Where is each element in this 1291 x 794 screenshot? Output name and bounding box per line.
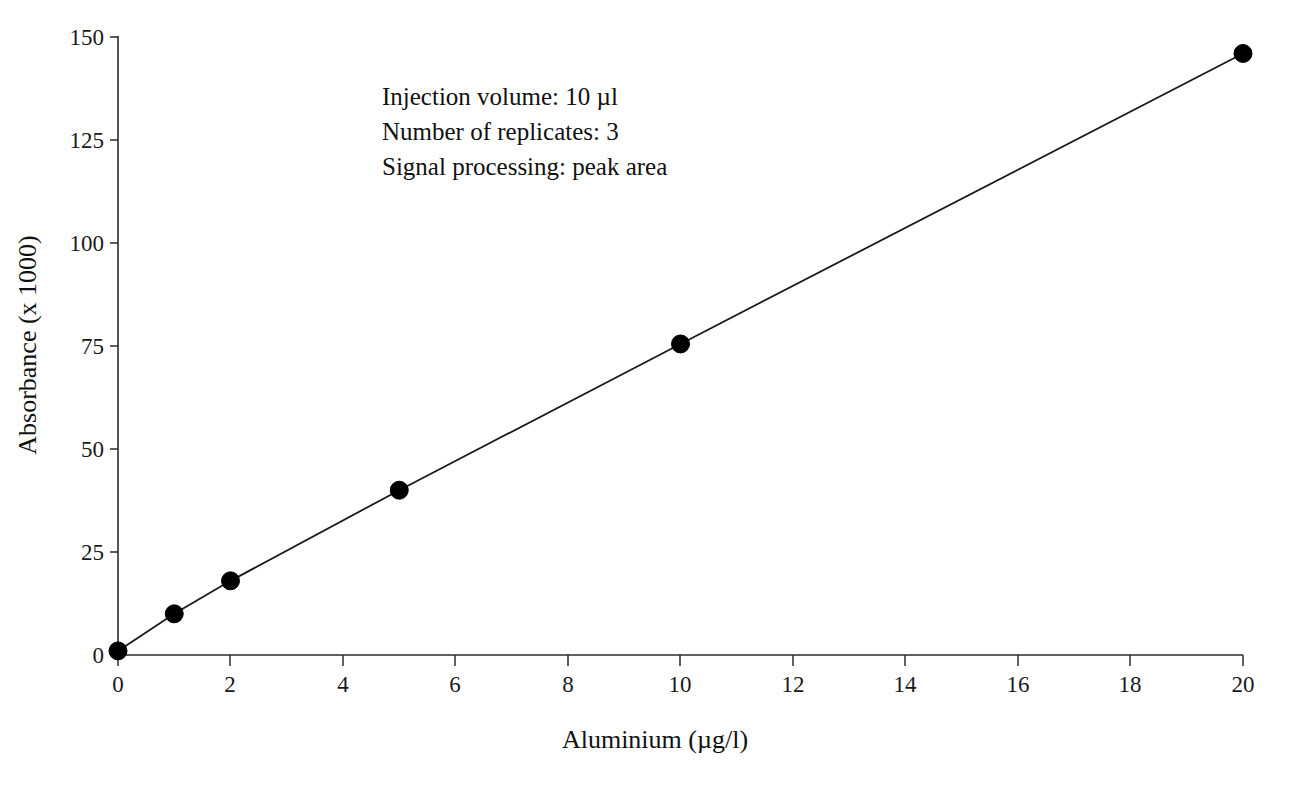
x-tick-label-10: 10 [669, 672, 692, 697]
data-point-marker [222, 572, 240, 590]
annotation-block: Injection volume: 10 µl Number of replic… [382, 83, 667, 180]
x-tick-label-12: 12 [782, 672, 805, 697]
calibration-chart-figure: 0 25 50 75 100 125 150 0 2 4 6 8 10 12 1… [0, 0, 1291, 794]
y-tick-label-50: 50 [81, 437, 104, 462]
chart-canvas: 0 25 50 75 100 125 150 0 2 4 6 8 10 12 1… [0, 0, 1291, 794]
y-axis-ticks [110, 37, 118, 655]
data-point-marker [1234, 44, 1252, 62]
y-tick-label-150: 150 [70, 25, 105, 50]
x-tick-label-6: 6 [449, 672, 461, 697]
y-tick-label-75: 75 [81, 334, 104, 359]
x-tick-label-14: 14 [894, 672, 918, 697]
x-tick-label-20: 20 [1232, 672, 1255, 697]
data-series-group [109, 44, 1252, 659]
x-tick-label-4: 4 [337, 672, 349, 697]
x-tick-label-18: 18 [1119, 672, 1142, 697]
x-tick-label-2: 2 [224, 672, 236, 697]
annotation-line-injection-volume: Injection volume: 10 µl [382, 83, 618, 110]
y-tick-label-0: 0 [93, 643, 105, 668]
x-axis-title: Aluminium (µg/l) [562, 725, 748, 754]
x-axis-ticks [118, 655, 1243, 666]
annotation-line-replicates: Number of replicates: 3 [382, 118, 619, 145]
annotation-line-signal-processing: Signal processing: peak area [382, 153, 667, 180]
data-point-marker [165, 605, 183, 623]
data-point-marker [109, 642, 127, 660]
x-tick-label-16: 16 [1007, 672, 1030, 697]
x-tick-label-8: 8 [562, 672, 574, 697]
x-axis-tick-labels: 0 2 4 6 8 10 12 14 16 18 20 [112, 672, 1254, 697]
y-axis-title: Absorbance (x 1000) [13, 235, 42, 455]
x-tick-label-0: 0 [112, 672, 124, 697]
y-tick-label-100: 100 [70, 231, 105, 256]
y-axis-tick-labels: 0 25 50 75 100 125 150 [70, 25, 105, 668]
data-point-marker [390, 481, 408, 499]
data-point-marker [672, 335, 690, 353]
y-tick-label-25: 25 [81, 540, 104, 565]
y-tick-label-125: 125 [70, 128, 105, 153]
